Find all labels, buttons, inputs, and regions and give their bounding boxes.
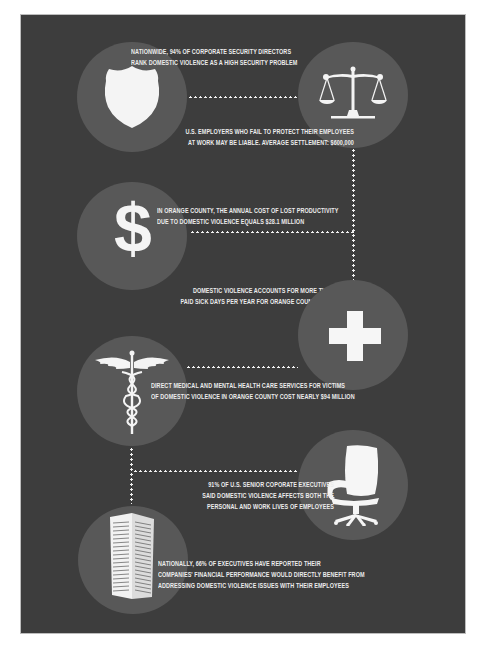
- stat-line: due to domestic violence equals $28.1 mi…: [157, 216, 338, 227]
- stat-line: rank domestic violence as a high securit…: [131, 57, 297, 68]
- dollar-sign-icon: $: [108, 190, 158, 266]
- medical-cross-icon: [329, 311, 381, 361]
- stat-line: In Orange County, the annual cost of los…: [157, 205, 338, 216]
- stat-line: Nationwide, 94% of corporate security di…: [131, 46, 297, 57]
- stat-line: companies' financial performance would d…: [158, 569, 365, 580]
- stat-line: at work may be liable. Average settlemen…: [186, 137, 354, 148]
- stat-line: 91% of U.S. senior coporate executives: [202, 479, 334, 490]
- stat-line: of domestic violence in Orange County co…: [151, 391, 355, 402]
- stat-medical-costs: Direct medical and mental health care se…: [151, 380, 355, 402]
- connector-scales-down: [352, 148, 355, 286]
- shield-icon: [103, 65, 161, 129]
- stat-line: Nationally, 66% of executives have repor…: [158, 558, 365, 569]
- connector-to-chair: [133, 470, 299, 472]
- office-building-icon: [110, 513, 156, 599]
- stat-line: addressing domestic violence issues with…: [158, 580, 365, 591]
- stat-senior-executives: 91% of U.S. senior coporate executives s…: [202, 479, 334, 512]
- connector-shield-to-scales: [188, 96, 298, 98]
- stat-financial-performance: Nationally, 66% of executives have repor…: [158, 558, 365, 591]
- stat-line: said domestic violence affects both the: [202, 490, 334, 501]
- stat-lost-productivity: In Orange County, the annual cost of los…: [157, 205, 338, 227]
- connector-dollar-to-right: [190, 231, 354, 233]
- stat-line: Direct medical and mental health care se…: [151, 380, 355, 391]
- connector-caduceus-to-cross: [186, 366, 298, 368]
- scales-of-justice-icon: [317, 66, 389, 120]
- stat-line: U.S. employers who fail to protect their…: [186, 126, 354, 137]
- office-chair-icon: [325, 444, 391, 526]
- connector-caduceus-down: [130, 442, 133, 504]
- stat-employer-liability: U.S. employers who fail to protect their…: [186, 126, 354, 148]
- stat-line: personal and work lives of employees: [202, 501, 334, 512]
- stat-security-directors: Nationwide, 94% of corporate security di…: [131, 46, 297, 68]
